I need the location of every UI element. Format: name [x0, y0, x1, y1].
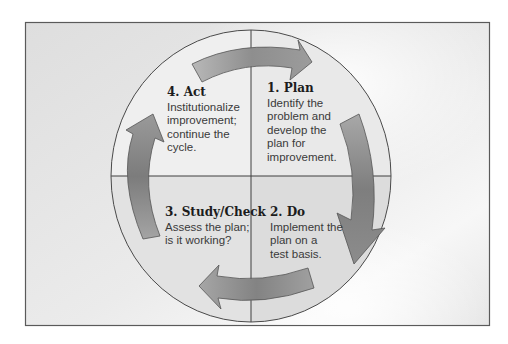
step-act-line: improvement; [167, 114, 240, 128]
step-study-check-heading: 3. Study/Check [165, 206, 266, 220]
diagram-canvas [0, 0, 508, 344]
step-study-check: 3. Study/Check Assess the plan; is it wo… [165, 206, 266, 248]
step-study-check-line: is it working? [165, 234, 266, 248]
step-do-line: Implement the [270, 221, 343, 235]
step-act-line: Institutionalize [167, 101, 240, 115]
step-plan-line: plan for [267, 137, 337, 151]
pdca-cycle-diagram: 4. Act Institutionalize improvement; con… [0, 0, 508, 344]
step-plan-line: develop the [267, 124, 337, 138]
step-plan-line: improvement. [267, 151, 337, 165]
step-plan: 1. Plan Identify the problem and develop… [267, 82, 337, 164]
step-do-line: test basis. [270, 248, 343, 262]
step-plan-line: Identify the [267, 97, 337, 111]
step-plan-heading: 1. Plan [267, 82, 337, 96]
step-study-check-line: Assess the plan; [165, 221, 266, 235]
step-do: 2. Do Implement the plan on a test basis… [270, 206, 343, 261]
step-act-line: cycle. [167, 141, 240, 155]
step-do-line: plan on a [270, 234, 343, 248]
step-act: 4. Act Institutionalize improvement; con… [167, 86, 240, 155]
step-act-line: continue the [167, 128, 240, 142]
step-plan-line: problem and [267, 110, 337, 124]
step-act-heading: 4. Act [167, 86, 240, 100]
step-do-heading: 2. Do [270, 206, 343, 220]
